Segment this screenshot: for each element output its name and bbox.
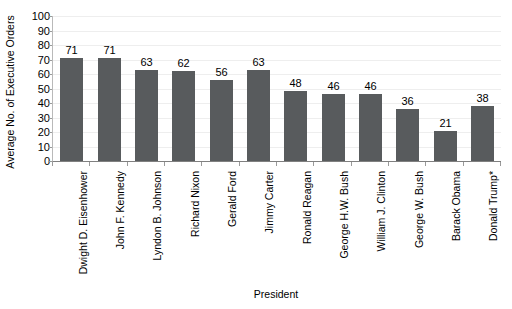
x-tick-mark [52, 162, 53, 166]
bar-chart: Average No. of Executive Orders 10090807… [0, 0, 512, 309]
x-tick-mark [239, 162, 240, 166]
bar [471, 106, 494, 161]
y-tick-mark [48, 31, 52, 32]
bar-value-label: 71 [89, 44, 130, 56]
x-category-label: Donald Trump* [486, 171, 500, 281]
bar-value-label: 63 [238, 56, 279, 68]
x-category-label: George H.W. Bush [337, 171, 351, 281]
bar-group: 56 [210, 16, 233, 161]
x-tick-mark [463, 162, 464, 166]
bar-group: 36 [396, 16, 419, 161]
x-category-label: William J. Clinton [374, 171, 388, 281]
bar-value-label: 36 [387, 95, 428, 107]
bar-value-label: 38 [462, 92, 503, 104]
y-tick-label: 90 [4, 26, 50, 37]
bar-group: 63 [247, 16, 270, 161]
bar-value-label: 71 [51, 44, 92, 56]
x-tick-mark [201, 162, 202, 166]
bar [98, 58, 121, 161]
y-tick-mark [48, 103, 52, 104]
bar [247, 70, 270, 161]
x-category-label: Ronald Reagan [300, 171, 314, 281]
bar [210, 80, 233, 161]
bar-value-label: 48 [275, 77, 316, 89]
bar-group: 62 [172, 16, 195, 161]
y-axis-ticks: 1009080706050403020100 [0, 0, 50, 309]
bar [359, 94, 382, 161]
y-tick-mark [48, 89, 52, 90]
bar-value-label: 46 [313, 80, 354, 92]
bar-group: 46 [322, 16, 345, 161]
x-tick-mark [425, 162, 426, 166]
x-category-label: John F. Kennedy [113, 171, 127, 281]
bar-value-label: 46 [350, 80, 391, 92]
y-tick-label: 100 [4, 11, 50, 22]
bar [60, 58, 83, 161]
y-tick-label: 0 [4, 156, 50, 167]
x-category-label: Richard Nixon [188, 171, 202, 281]
x-tick-mark [276, 162, 277, 166]
bar-group: 71 [98, 16, 121, 161]
bar-group: 38 [471, 16, 494, 161]
y-tick-label: 50 [4, 84, 50, 95]
bar-group: 71 [60, 16, 83, 161]
bar [322, 94, 345, 161]
bar-group: 63 [135, 16, 158, 161]
x-tick-mark [89, 162, 90, 166]
y-tick-label: 80 [4, 40, 50, 51]
bar [172, 71, 195, 161]
x-category-label: Jimmy Carter [262, 171, 276, 281]
x-tick-mark [388, 162, 389, 166]
bar-value-label: 63 [126, 56, 167, 68]
y-tick-mark [48, 45, 52, 46]
bar [434, 131, 457, 161]
y-tick-label: 70 [4, 55, 50, 66]
bar [135, 70, 158, 161]
y-tick-mark [48, 60, 52, 61]
bar-group: 21 [434, 16, 457, 161]
y-tick-label: 30 [4, 113, 50, 124]
x-category-label: Barack Obama [449, 171, 463, 281]
x-category-label: George W. Bush [412, 171, 426, 281]
y-tick-mark [48, 74, 52, 75]
plot-area: 717163625663484646362138 [52, 16, 501, 162]
x-tick-mark [351, 162, 352, 166]
bar [284, 91, 307, 161]
y-tick-label: 60 [4, 69, 50, 80]
x-category-label: Lyndon B. Johnson [150, 171, 164, 281]
y-tick-label: 20 [4, 127, 50, 138]
bar-value-label: 62 [163, 57, 204, 69]
bar [396, 109, 419, 161]
x-axis-title: President [52, 288, 500, 300]
bar-value-label: 56 [201, 66, 242, 78]
bar-value-label: 21 [425, 117, 466, 129]
y-tick-mark [48, 118, 52, 119]
x-tick-mark [500, 162, 501, 166]
x-tick-mark [127, 162, 128, 166]
y-tick-mark [48, 147, 52, 148]
y-tick-mark [48, 132, 52, 133]
y-tick-label: 40 [4, 98, 50, 109]
y-tick-label: 10 [4, 142, 50, 153]
x-category-label: Dwight D. Eisenhower [76, 171, 90, 281]
y-tick-mark [48, 161, 52, 162]
x-tick-mark [313, 162, 314, 166]
x-tick-mark [164, 162, 165, 166]
bar-group: 48 [284, 16, 307, 161]
y-tick-mark [48, 16, 52, 17]
x-category-label: Gerald Ford [225, 171, 239, 281]
bar-group: 46 [359, 16, 382, 161]
